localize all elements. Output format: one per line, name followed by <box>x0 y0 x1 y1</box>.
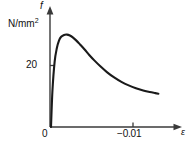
x-axis-quantity-symbol: ε <box>181 128 185 137</box>
origin-label: 0 <box>42 129 48 139</box>
x-axis <box>50 123 182 131</box>
y-axis-quantity-symbol: f <box>40 1 43 11</box>
y-axis-unit-label: N/mm2 <box>8 19 39 29</box>
y-axis-tick-label-20: 20 <box>26 60 37 70</box>
stress-strain-curve <box>51 35 158 127</box>
y-axis-unit-exponent: 2 <box>35 17 39 24</box>
x-axis-tick-label-minus-001: −0.01 <box>117 129 141 139</box>
stress-strain-figure: f N/mm2 20 0 −0.01 ε <box>0 0 196 153</box>
y-axis-arrowhead <box>47 6 54 15</box>
y-axis-unit-text: N/mm <box>8 18 35 29</box>
